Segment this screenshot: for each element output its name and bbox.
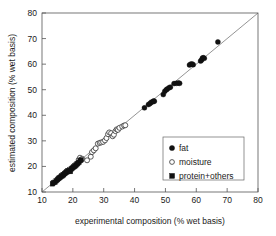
data-point-filled-square	[79, 157, 84, 162]
data-point-open-circle	[123, 123, 128, 128]
filled-circle-icon	[169, 145, 174, 150]
x-tick-label: 10	[37, 195, 47, 205]
x-tick-label: 40	[130, 195, 140, 205]
y-tick-label: 60	[28, 59, 38, 69]
open-circle-icon	[170, 160, 175, 165]
y-tick-label: 40	[28, 110, 38, 120]
y-tick-label: 30	[28, 136, 38, 146]
chart-legend: fat moisture protein+others	[163, 137, 244, 181]
data-point-filled-circle	[152, 99, 157, 104]
x-tick-label: 20	[68, 195, 78, 205]
data-point-filled-circle	[177, 81, 182, 86]
data-point-filled-circle	[142, 105, 147, 110]
x-tick-label: 60	[192, 195, 202, 205]
plot-canvas: 1020304050607080 1020304050607080 experi…	[0, 0, 276, 236]
y-axis-title: estimated composition (% wet basis)	[7, 34, 17, 172]
data-point-filled-circle	[215, 39, 220, 44]
data-point-filled-circle	[202, 56, 207, 61]
legend-label-protein-others: protein+others	[179, 171, 234, 181]
x-tick-label: 50	[161, 195, 171, 205]
filled-square-icon	[170, 173, 175, 178]
scatter-chart-figure: 1020304050607080 1020304050607080 experi…	[0, 0, 276, 236]
legend-label-moisture: moisture	[179, 157, 212, 167]
data-point-filled-circle	[191, 62, 196, 67]
x-tick-label: 70	[222, 195, 232, 205]
x-tick-label: 80	[253, 195, 263, 205]
y-tick-label: 70	[28, 34, 38, 44]
x-tick-label: 30	[99, 195, 109, 205]
y-tick-label: 80	[28, 8, 38, 18]
legend-label-fat: fat	[179, 143, 189, 153]
x-axis-title: experimental composition (% wet basis)	[75, 216, 225, 226]
y-tick-label: 20	[28, 161, 38, 171]
y-tick-label: 50	[28, 85, 38, 95]
legend-item-protein-others: protein+others	[170, 171, 234, 181]
y-tick-label: 10	[28, 187, 38, 197]
